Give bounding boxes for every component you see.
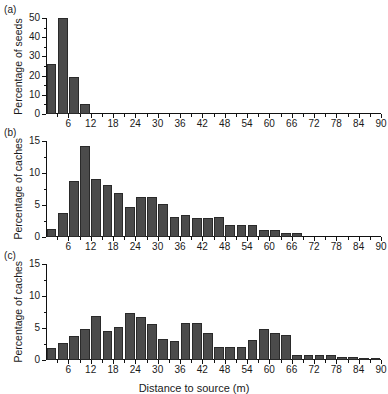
y-tick-label: 10 <box>29 90 40 100</box>
histogram-bar <box>281 233 291 237</box>
y-tick-minor <box>44 312 47 313</box>
x-axis-title: Distance to source (m) <box>0 382 388 394</box>
x-tick-minor <box>325 237 326 240</box>
y-tick-minor <box>44 28 47 29</box>
y-tick <box>42 205 46 206</box>
y-tick <box>42 76 46 77</box>
x-tick-minor <box>80 114 81 117</box>
histogram-bar <box>103 185 113 237</box>
x-tick-minor <box>303 360 304 363</box>
x-tick-minor <box>191 237 192 240</box>
x-tick-minor <box>57 360 58 363</box>
x-tick-minor <box>147 237 148 240</box>
x-tick-label: 42 <box>197 365 208 375</box>
x-tick-minor <box>348 114 349 117</box>
histogram-bar <box>281 335 291 360</box>
histogram-bar <box>170 217 180 237</box>
histogram-bar <box>181 215 191 237</box>
x-tick-label: 54 <box>241 365 252 375</box>
y-tick <box>42 37 46 38</box>
plot-area: 05101561218243036424854606672788490 <box>46 264 381 360</box>
y-tick-label: 40 <box>29 32 40 42</box>
y-tick <box>42 95 46 96</box>
histogram-bar <box>69 77 79 114</box>
histogram-bar <box>214 347 224 360</box>
histogram-bar <box>136 197 146 237</box>
x-tick-minor <box>303 237 304 240</box>
x-tick-minor <box>102 360 103 363</box>
histogram-bar <box>47 229 57 237</box>
x-tick-label: 12 <box>85 365 96 375</box>
y-tick-label: 15 <box>29 259 40 269</box>
histogram-bar <box>181 323 191 360</box>
panel-tag: (b) <box>4 127 17 138</box>
histogram-bar <box>103 331 113 360</box>
x-tick-minor <box>281 360 282 363</box>
histogram-bar <box>192 323 202 360</box>
histogram-bar <box>125 207 135 237</box>
histogram-bar <box>47 64 57 114</box>
x-tick-minor <box>370 114 371 117</box>
y-tick-label: 10 <box>29 168 40 178</box>
histogram-bar <box>69 336 79 360</box>
x-tick-label: 18 <box>107 365 118 375</box>
histogram-bar <box>147 324 157 360</box>
histogram-bar <box>248 340 258 360</box>
x-tick-minor <box>236 360 237 363</box>
x-tick-minor <box>236 237 237 240</box>
y-tick <box>42 237 46 238</box>
y-axis-title: Percentage of caches <box>13 139 24 239</box>
x-tick-label: 30 <box>152 365 163 375</box>
histogram-bar <box>158 204 168 237</box>
y-tick <box>42 360 46 361</box>
y-tick-label: 5 <box>34 200 40 210</box>
histogram-bar <box>225 225 235 237</box>
y-tick <box>42 264 46 265</box>
x-tick-minor <box>214 114 215 117</box>
x-tick-minor <box>325 360 326 363</box>
x-tick-minor <box>325 114 326 117</box>
x-tick-label: 72 <box>308 365 319 375</box>
x-tick-minor <box>281 237 282 240</box>
y-tick <box>42 18 46 19</box>
histogram-bar <box>259 230 269 237</box>
x-tick-label: 36 <box>174 365 185 375</box>
histogram-bar <box>259 329 269 360</box>
y-tick-label: 10 <box>29 291 40 301</box>
histogram-bar <box>58 213 68 237</box>
y-tick-label: 0 <box>34 109 40 119</box>
y-axis-title: Percentage of seeds <box>13 16 24 116</box>
y-tick <box>42 296 46 297</box>
y-tick-minor <box>44 157 47 158</box>
histogram-bar <box>248 225 258 237</box>
y-tick <box>42 173 46 174</box>
x-tick-minor <box>214 360 215 363</box>
histogram-bar <box>270 333 280 360</box>
x-tick-minor <box>214 237 215 240</box>
histogram-bar <box>58 343 68 360</box>
histogram-bar <box>292 355 302 360</box>
x-tick-label: 90 <box>375 365 386 375</box>
plot-area: 05101561218243036424854606672788490 <box>46 141 381 237</box>
histogram-bar <box>292 233 302 237</box>
x-tick-minor <box>57 237 58 240</box>
histogram-bar <box>114 193 124 237</box>
histogram-bar <box>136 317 146 360</box>
y-tick-label: 0 <box>34 355 40 365</box>
y-tick-label: 5 <box>34 323 40 333</box>
x-tick-minor <box>124 237 125 240</box>
x-tick-minor <box>80 237 81 240</box>
histogram-bar <box>304 355 314 360</box>
x-tick-minor <box>370 237 371 240</box>
x-tick-minor <box>147 114 148 117</box>
histogram-bar <box>371 358 381 360</box>
x-tick-minor <box>57 114 58 117</box>
histogram-bar <box>125 313 135 360</box>
y-tick <box>42 141 46 142</box>
histogram-bar <box>80 329 90 360</box>
histogram-bar <box>69 181 79 237</box>
y-tick-minor <box>44 47 47 48</box>
chart-panel-3: (c)Percentage of caches05101561218243036… <box>0 250 388 386</box>
x-tick-minor <box>258 360 259 363</box>
